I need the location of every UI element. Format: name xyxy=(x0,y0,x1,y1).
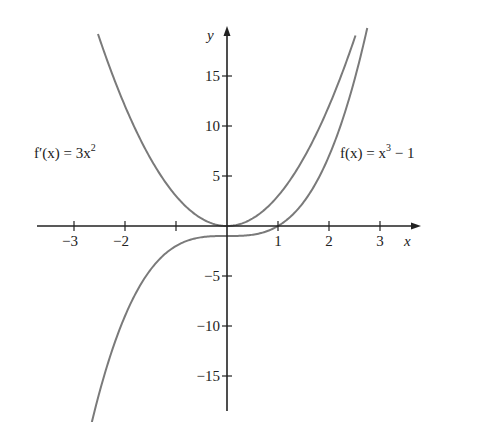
fprime-annotation: f′(x) = 3x2 xyxy=(34,142,96,162)
y-axis-label: y xyxy=(205,27,214,43)
x-tick-label: 3 xyxy=(376,233,384,249)
y-tick-label: −5 xyxy=(204,268,220,284)
x-tick-label: 2 xyxy=(325,233,333,249)
y-axis-arrow-icon xyxy=(224,26,231,36)
x-tick-label: 1 xyxy=(274,233,282,249)
x-axis-label: x xyxy=(403,233,411,249)
y-tick-label: 10 xyxy=(205,118,220,134)
fprime-annotation-text: f′(x) = 3x xyxy=(34,145,91,162)
y-tick-label: −10 xyxy=(197,318,220,334)
f-annotation-text: f(x) = x xyxy=(340,145,386,162)
x-tick-label: −3 xyxy=(62,233,78,249)
x-axis-arrow-icon xyxy=(411,223,421,230)
y-tick-label: 5 xyxy=(213,168,221,184)
y-tick-label: 15 xyxy=(205,68,220,84)
y-tick-label: −15 xyxy=(197,368,220,384)
function-plot: −3−2123−15−10−551015 x y f′(x) = 3x2 f(x… xyxy=(0,0,488,422)
f-annotation-tail: − 1 xyxy=(391,145,414,161)
axes xyxy=(37,26,421,411)
fprime-annotation-exponent: 2 xyxy=(91,142,96,153)
f-annotation: f(x) = x3 − 1 xyxy=(340,142,414,162)
curves xyxy=(92,28,367,422)
x-tick-label: −2 xyxy=(113,233,129,249)
